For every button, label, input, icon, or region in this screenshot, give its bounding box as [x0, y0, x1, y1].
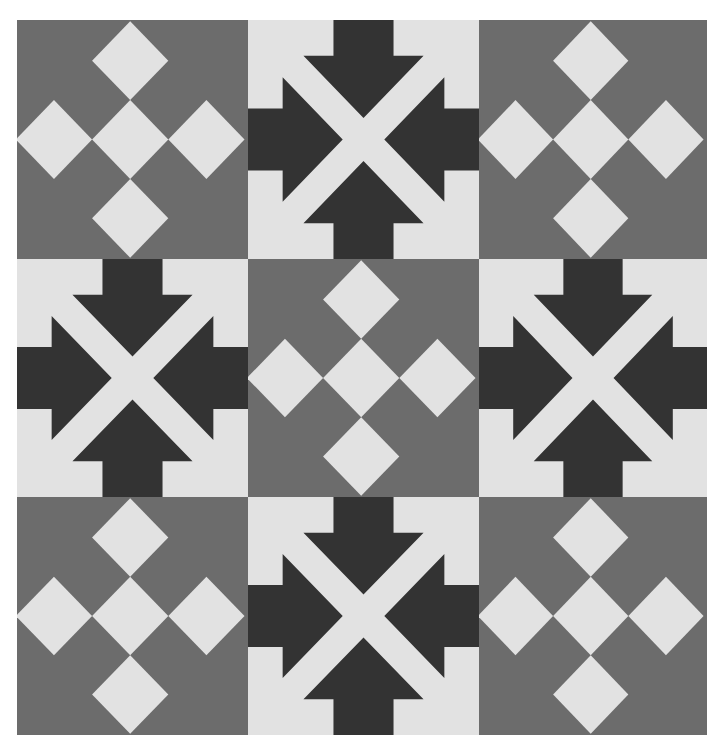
block-arrows-in [248, 20, 479, 259]
block-arrows-in [17, 259, 248, 497]
block-diamond-cross [17, 20, 248, 259]
block-arrows-in [248, 497, 479, 735]
block-diamond-cross [479, 20, 707, 259]
quilt [17, 20, 707, 735]
block-arrows-in [479, 259, 707, 497]
block-diamond-cross [17, 497, 248, 735]
block-diamond-cross [479, 497, 707, 735]
block-diamond-cross [248, 259, 479, 497]
